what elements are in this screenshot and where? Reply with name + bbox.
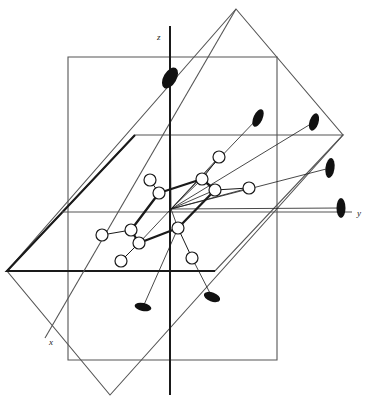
lobe-lobe-sw [134, 301, 152, 312]
atom-a7 [125, 224, 137, 236]
atom-a9 [96, 229, 108, 241]
atom-a2 [153, 187, 165, 199]
molecular-coordinate-diagram: xyz Molecular framework in a Cartesian r… [0, 0, 377, 409]
lobe-lobe-y [337, 198, 346, 218]
atom-a3 [196, 173, 208, 185]
planes-group [7, 9, 343, 395]
atom-a11 [172, 222, 184, 234]
axis-label-y: y [356, 208, 361, 218]
axis-labels-group: xyz [48, 32, 361, 347]
lobe-lobe-nne [307, 112, 321, 132]
plane-horizontal-front-edge [7, 135, 215, 271]
lobe-lobe-s [202, 290, 221, 304]
plane-horizontal-plane [7, 135, 343, 271]
diagram-canvas: xyz [0, 0, 377, 409]
lobe-lobe-ne [250, 107, 266, 128]
lobe-lobe-e [324, 157, 336, 178]
atom-a4 [209, 184, 221, 196]
atom-a12 [186, 252, 198, 264]
atom-a5 [213, 151, 225, 163]
axis-label-z: z [156, 32, 161, 42]
bond-a2-a3 [159, 179, 202, 193]
atom-a6 [243, 182, 255, 194]
lobe-stems-group [143, 78, 341, 307]
hub-rays-group [139, 157, 249, 243]
plane-diagonal-plane [7, 9, 343, 395]
atom-a1 [144, 174, 156, 186]
axis-label-x: x [48, 337, 53, 347]
atom-a10 [115, 255, 127, 267]
lobe-lobe-z [159, 65, 182, 91]
atom-a8 [133, 237, 145, 249]
